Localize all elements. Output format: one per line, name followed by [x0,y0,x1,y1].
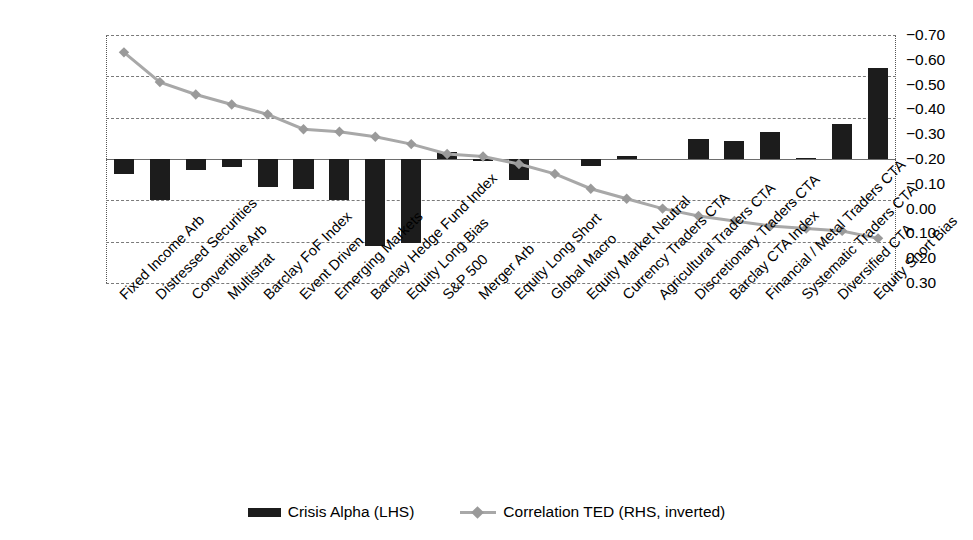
bar-swatch-icon [248,508,281,517]
line-marker-diamond [226,99,236,109]
right-tick-label: −0.60 [906,52,945,68]
line-marker-diamond [621,193,631,203]
line-marker-diamond [262,109,272,119]
line-marker-diamond [478,151,488,161]
right-tick-label: −0.30 [906,126,945,142]
right-tick-label: −0.40 [906,101,945,117]
right-tick-label: −0.50 [906,77,945,93]
line-marker-diamond [550,169,560,179]
chart-legend: Crisis Alpha (LHS) Correlation TED (RHS,… [0,503,973,521]
line-marker-diamond [370,131,380,141]
category-axis-labels: Fixed Income ArbDistressed SecuritiesCon… [0,286,973,486]
line-marker-diamond [406,139,416,149]
line-marker-diamond [586,184,596,194]
crisis-alpha-correlation-chart: 15%10%5%0%−5%−10%−15% −0.70−0.60−0.50−0.… [0,0,973,540]
right-tick-label: −0.20 [906,151,945,167]
legend-label-crisis-alpha: Crisis Alpha (LHS) [288,503,415,521]
line-marker-diamond [334,127,344,137]
line-marker-diamond [442,149,452,159]
line-marker-diamond [298,124,308,134]
right-tick-label: 0.00 [906,201,936,217]
legend-entry-crisis-alpha: Crisis Alpha (LHS) [248,503,415,521]
line-marker-diamond [191,89,201,99]
right-tick-label: −0.70 [906,27,945,43]
line-marker-diamond [514,159,524,169]
line-diamond-swatch-icon [460,506,496,518]
legend-entry-correlation-ted: Correlation TED (RHS, inverted) [460,503,725,521]
legend-label-correlation-ted: Correlation TED (RHS, inverted) [503,503,725,521]
